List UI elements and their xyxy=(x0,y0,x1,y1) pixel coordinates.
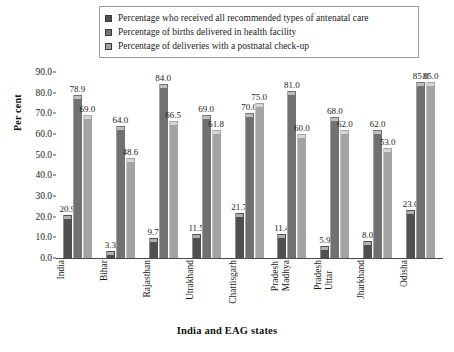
bar-edge xyxy=(126,158,127,258)
bar-edge xyxy=(255,103,256,258)
bar-slot: 69.0 xyxy=(202,72,211,258)
x-axis-line xyxy=(56,258,443,259)
bar-edge xyxy=(277,234,278,258)
bar-highlight xyxy=(246,114,253,117)
bar[interactable]: 21.7 xyxy=(235,213,244,258)
bar-edge xyxy=(245,113,246,258)
bar-highlight xyxy=(160,85,167,88)
bar-highlight xyxy=(384,149,391,152)
bar[interactable]: 75.0 xyxy=(255,103,264,258)
bar[interactable]: 53.0 xyxy=(383,148,392,258)
bar-slot: 60.0 xyxy=(297,72,306,258)
bar-highlight xyxy=(321,247,328,250)
bar[interactable]: 62.0 xyxy=(373,130,382,258)
x-axis-title: India and EAG states xyxy=(0,325,454,336)
bar-slot: 11.5 xyxy=(192,72,201,258)
category-label-line: Odisha xyxy=(399,260,410,287)
bar[interactable]: 66.5 xyxy=(169,121,178,258)
bar-group: 11.569.061.8 xyxy=(192,72,221,258)
bar[interactable]: 60.0 xyxy=(297,134,306,258)
bar-group: 20.978.969.0 xyxy=(63,72,92,258)
bar-group: 5.968.062.0 xyxy=(320,72,349,258)
bar-highlight xyxy=(84,116,91,119)
y-axis-tick-label: 80.0 xyxy=(35,88,52,98)
bar-group: 23.085.085.0 xyxy=(406,72,435,258)
bar[interactable]: 64.0 xyxy=(116,126,125,258)
bar-value-label: 48.6 xyxy=(122,147,138,157)
bar-edge xyxy=(426,82,427,258)
bar-group: 3.364.048.6 xyxy=(106,72,135,258)
bar-highlight xyxy=(288,92,295,95)
bar-slot: 53.0 xyxy=(383,72,392,258)
bar-highlight xyxy=(107,252,114,255)
bar-slot: 9.7 xyxy=(149,72,158,258)
bar[interactable]: 3.3 xyxy=(106,251,115,258)
x-axis-category-labels: IndiaBiharRajasthanUtrakhandChattisgarhM… xyxy=(56,260,442,322)
bar[interactable]: 69.0 xyxy=(83,115,92,258)
legend-item-health-facility: Percentage of births delivered in health… xyxy=(105,25,412,39)
bar-highlight xyxy=(150,239,157,242)
y-axis-tick-label: 50.0 xyxy=(35,150,52,160)
bar[interactable]: 5.9 xyxy=(320,246,329,258)
bar-slot: 11.4 xyxy=(277,72,286,258)
x-axis-category-label: Bihar xyxy=(99,260,142,281)
bar[interactable]: 81.0 xyxy=(287,91,296,258)
bar-highlight xyxy=(236,214,243,217)
bar-slot: 8.0 xyxy=(363,72,372,258)
bar[interactable]: 23.0 xyxy=(406,210,415,258)
y-axis-tick-label: 40.0 xyxy=(35,170,52,180)
x-axis-category-label: UttarPradesh xyxy=(313,260,356,290)
bar-slot: 78.9 xyxy=(73,72,82,258)
bar[interactable]: 85.0 xyxy=(426,82,435,258)
bar-slot: 69.0 xyxy=(83,72,92,258)
bar[interactable]: 68.0 xyxy=(330,117,339,258)
bar[interactable]: 11.4 xyxy=(277,234,286,258)
bar-edge xyxy=(320,246,321,258)
bar-highlight xyxy=(256,104,263,107)
bar-edge xyxy=(149,238,150,258)
bar-slot: 3.3 xyxy=(106,72,115,258)
bar-value-label: 69.0 xyxy=(80,104,96,114)
y-axis-tick-label: 70.0 xyxy=(35,108,52,118)
y-axis-tick-label: 90.0 xyxy=(35,67,52,77)
bar[interactable]: 20.9 xyxy=(63,215,72,258)
bar-slot: 62.0 xyxy=(373,72,382,258)
bar[interactable]: 11.5 xyxy=(192,234,201,258)
bar-value-label: 8.0 xyxy=(362,230,373,240)
category-label-line: Pradesh xyxy=(270,260,281,291)
bar-slot: 20.9 xyxy=(63,72,72,258)
category-label-line: Utrakhand xyxy=(185,260,196,300)
bar[interactable]: 8.0 xyxy=(363,241,372,258)
bar[interactable]: 78.9 xyxy=(73,95,82,258)
legend-swatch-series-2 xyxy=(105,29,112,36)
legend-label-series-1: Percentage who received all recommended … xyxy=(118,13,369,23)
chart-legend: Percentage who received all recommended … xyxy=(99,6,419,58)
bar-value-label: 61.8 xyxy=(208,119,224,129)
bar-edge xyxy=(373,130,374,258)
bar-edge xyxy=(63,215,64,258)
y-axis-tick-label: 30.0 xyxy=(35,191,52,201)
x-axis-category-label: Rajasthan xyxy=(142,260,185,297)
x-axis-category-label: India xyxy=(56,260,99,280)
bar-edge xyxy=(235,213,236,258)
bar-highlight xyxy=(213,131,220,134)
bar-highlight xyxy=(193,235,200,238)
bar[interactable]: 61.8 xyxy=(212,130,221,258)
bar-slot: 23.0 xyxy=(406,72,415,258)
bar-group: 21.770.075.0 xyxy=(235,72,264,258)
bar-edge xyxy=(363,241,364,258)
bar[interactable]: 70.0 xyxy=(245,113,254,258)
bar-highlight xyxy=(417,83,424,86)
category-label-line: Pradesh xyxy=(313,260,324,290)
y-axis-tick-label: 10.0 xyxy=(35,232,52,242)
bar[interactable]: 85.0 xyxy=(416,82,425,258)
bar-edge xyxy=(106,251,107,258)
bar[interactable]: 69.0 xyxy=(202,115,211,258)
chart-figure: Percentage who received all recommended … xyxy=(0,0,454,352)
bar[interactable]: 62.0 xyxy=(340,130,349,258)
category-label-line: Chattisgarh xyxy=(228,260,239,304)
bar[interactable]: 48.6 xyxy=(126,158,135,258)
legend-label-series-2: Percentage of births delivered in health… xyxy=(118,27,296,37)
bar-value-label: 9.7 xyxy=(148,227,159,237)
bar[interactable]: 9.7 xyxy=(149,238,158,258)
